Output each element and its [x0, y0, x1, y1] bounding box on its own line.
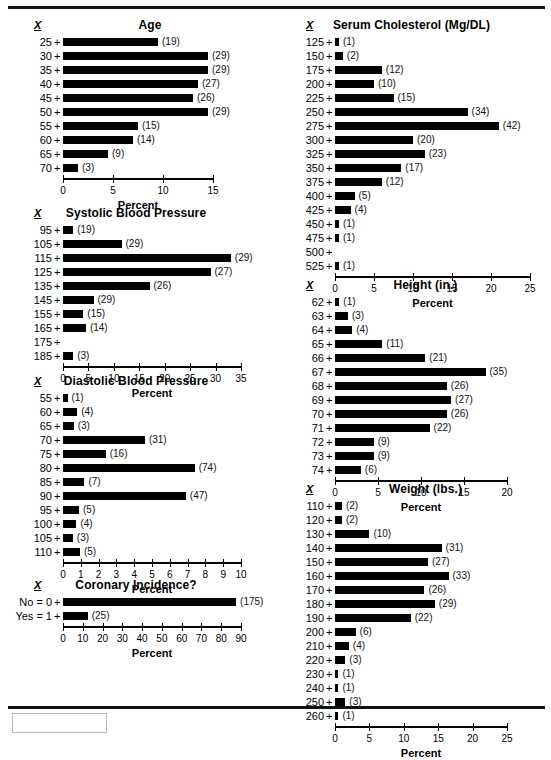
bar-count-label: (31): [149, 433, 167, 447]
x-axis-tick-label: 0: [60, 184, 66, 197]
x-axis-tick: [241, 363, 242, 371]
row-plus-marker: +: [326, 245, 334, 259]
row-bar-area: (27): [335, 555, 549, 569]
row-plus-marker: +: [54, 595, 62, 609]
chart-row: 260+(1): [272, 709, 551, 723]
row-plus-marker: +: [326, 91, 334, 105]
row-plus-marker: +: [54, 531, 62, 545]
row-bar-area: (3): [63, 161, 270, 175]
row-category-label: 125: [0, 265, 52, 279]
chart-row: 135+(26): [0, 279, 272, 293]
row-plus-marker: +: [54, 265, 62, 279]
row-plus-marker: +: [326, 63, 334, 77]
row-category-label: 240: [272, 681, 324, 695]
chart-row: 120+(2): [272, 513, 551, 527]
row-bar-area: (20): [335, 133, 549, 147]
row-bar-area: (19): [63, 35, 270, 49]
chart-title-weight: Weight (lbs.): [272, 482, 551, 496]
row-bar-area: (7): [63, 475, 270, 489]
row-category-label: 475: [272, 231, 324, 245]
bar-count-label: (1): [342, 667, 354, 681]
bar-count-label: (9): [378, 435, 390, 449]
x-axis-tick: [473, 723, 474, 731]
row-bar-area: (12): [335, 175, 549, 189]
row-category-label: 25: [0, 35, 52, 49]
chart-row: 325+(23): [272, 147, 551, 161]
row-plus-marker: +: [54, 293, 62, 307]
bar-count-label: (6): [365, 463, 377, 477]
bar-count-label: (27): [455, 393, 473, 407]
bar-count-label: (4): [355, 203, 367, 217]
row-plus-marker: +: [326, 77, 334, 91]
row-bar-area: (31): [335, 541, 549, 555]
row-category-label: No = 0: [0, 595, 52, 609]
chart-rows-cholesterol: 125+(1)150+(2)175+(12)200+(10)225+(15)25…: [272, 35, 551, 273]
row-category-label: 60: [0, 133, 52, 147]
bar: [335, 670, 338, 678]
row-category-label: 95: [0, 503, 52, 517]
chart-row: 160+(33): [272, 569, 551, 583]
x-axis-tick: [162, 623, 163, 631]
row-category-label: 110: [0, 545, 52, 559]
row-category-label: 64: [272, 323, 324, 337]
chart-row: 210+(4): [272, 639, 551, 653]
row-plus-marker: +: [326, 365, 334, 379]
bar-count-label: (29): [212, 49, 230, 63]
bar-count-label: (3): [77, 531, 89, 545]
row-bar-area: (31): [63, 433, 270, 447]
chart-title-systolic: Systolic Blood Pressure: [0, 206, 272, 220]
bar: [335, 530, 369, 538]
bar: [335, 312, 348, 320]
row-plus-marker: +: [54, 335, 62, 349]
row-plus-marker: +: [326, 709, 334, 723]
chart-panel-height: XHeight (in.)62+(1)63+(3)64+(4)65+(11)66…: [272, 278, 551, 514]
row-bar-area: (9): [63, 147, 270, 161]
chart-row: 75+(16): [0, 447, 272, 461]
row-category-label: 150: [272, 555, 324, 569]
bar: [63, 282, 150, 290]
row-plus-marker: +: [54, 419, 62, 433]
row-bar-area: (11): [335, 337, 549, 351]
chart-row: 95+(5): [0, 503, 272, 517]
chart-row: 73+(9): [272, 449, 551, 463]
x-axis-tick: [335, 723, 336, 731]
bar-count-label: (26): [451, 407, 469, 421]
row-bar-area: (4): [63, 405, 270, 419]
row-plus-marker: +: [54, 251, 62, 265]
chart-row: 150+(27): [272, 555, 551, 569]
chart-header-coronary: XCoronary Incidence?: [0, 578, 272, 595]
x-axis-tick: [216, 363, 217, 371]
row-bar-area: (3): [335, 309, 549, 323]
chart-panel-age: XAge25+(19)30+(29)35+(29)40+(27)45+(26)5…: [0, 18, 272, 212]
bar: [63, 436, 145, 444]
row-bar-area: (26): [335, 407, 549, 421]
row-bar-area: (29): [335, 597, 549, 611]
bar-count-label: (9): [378, 449, 390, 463]
chart-row: 220+(3): [272, 653, 551, 667]
bar-count-label: (4): [356, 323, 368, 337]
x-axis-tick-label: 80: [216, 632, 227, 645]
row-category-label: 165: [0, 321, 52, 335]
bar: [335, 38, 339, 46]
chart-row: 80+(74): [0, 461, 272, 475]
row-plus-marker: +: [326, 449, 334, 463]
bar: [63, 122, 138, 130]
bar: [335, 544, 442, 552]
x-axis-tick-label: 70: [196, 632, 207, 645]
row-bar-area: (2): [335, 513, 549, 527]
row-category-label: 140: [272, 541, 324, 555]
row-bar-area: (1): [335, 231, 549, 245]
row-bar-area: (3): [335, 653, 549, 667]
chart-title-cholesterol: Serum Cholesterol (Mg/DL): [272, 18, 551, 32]
bar-count-label: (26): [154, 279, 172, 293]
bar: [335, 600, 435, 608]
row-bar-area: (9): [335, 449, 549, 463]
chart-row: 140+(31): [272, 541, 551, 555]
x-axis-tick-label: 60: [176, 632, 187, 645]
bar-count-label: (16): [110, 447, 128, 461]
bar: [63, 506, 79, 514]
chart-row: 35+(29): [0, 63, 272, 77]
row-category-label: 50: [0, 105, 52, 119]
row-bar-area: (5): [335, 189, 549, 203]
chart-row: 55+(15): [0, 119, 272, 133]
